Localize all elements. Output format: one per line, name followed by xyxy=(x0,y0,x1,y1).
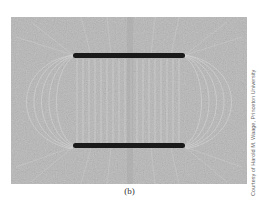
field-lines-photo xyxy=(11,17,247,184)
bottom-plate xyxy=(73,143,185,148)
figure-caption: (b) xyxy=(0,186,259,196)
photo-credit: Courtesy of Harold M. Waage, Princeton U… xyxy=(250,70,256,196)
top-plate xyxy=(73,53,185,58)
field-pattern xyxy=(11,17,247,184)
